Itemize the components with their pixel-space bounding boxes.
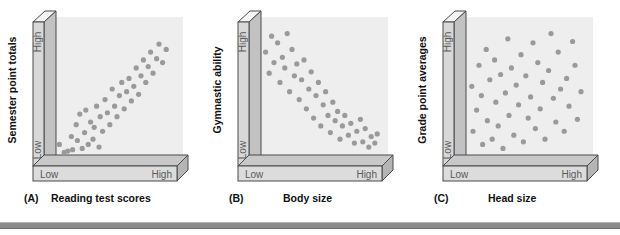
data-point	[493, 100, 498, 105]
x-tick-high: High	[561, 169, 582, 180]
panel-a: High Low Low High Semester point totals …	[0, 0, 200, 215]
y-tick-high: High	[237, 32, 248, 53]
data-point	[96, 144, 101, 149]
data-point	[282, 65, 287, 70]
data-point	[352, 141, 357, 146]
data-point	[285, 31, 290, 36]
data-point	[490, 137, 495, 142]
data-point	[289, 47, 294, 52]
data-point	[506, 113, 511, 118]
plot-area	[463, 17, 593, 160]
data-point	[77, 111, 82, 116]
data-point	[146, 64, 151, 69]
data-point	[86, 142, 91, 147]
data-point	[141, 57, 146, 62]
x-axis-title: Head size	[488, 192, 537, 204]
data-point	[523, 73, 528, 78]
y-axis-side-face	[249, 11, 261, 166]
y-axis-title: Grade point averages	[416, 36, 428, 144]
data-point	[354, 129, 359, 134]
data-point	[474, 108, 479, 113]
data-point	[553, 119, 558, 124]
x-tick-high: High	[151, 169, 172, 180]
data-point	[57, 142, 62, 147]
data-point	[82, 130, 87, 135]
data-point	[484, 47, 489, 52]
data-point	[342, 113, 347, 118]
y-tick-high: High	[442, 32, 453, 53]
data-point	[321, 102, 326, 107]
y-axis-side-face	[454, 11, 466, 166]
data-point	[509, 65, 514, 70]
data-point	[297, 97, 302, 102]
data-point	[112, 104, 117, 109]
data-point	[516, 102, 521, 107]
panel-a-svg: High Low Low High Semester point totals …	[0, 0, 200, 215]
panel-c: High Low Low High Grade point averages (…	[410, 0, 610, 215]
data-point	[575, 117, 580, 122]
data-point	[65, 148, 70, 153]
y-tick-low: Low	[442, 140, 453, 159]
data-point	[277, 80, 282, 85]
data-point	[280, 55, 285, 60]
data-point	[566, 104, 571, 109]
data-point	[366, 144, 371, 149]
data-point	[94, 104, 99, 109]
data-point	[346, 133, 351, 138]
data-point	[360, 139, 365, 144]
data-point	[292, 73, 297, 78]
data-point	[500, 146, 505, 151]
data-point	[100, 129, 105, 134]
data-point	[562, 129, 567, 134]
data-point	[551, 96, 556, 101]
data-point	[323, 89, 328, 94]
y-tick-low: Low	[237, 140, 248, 159]
data-point	[134, 65, 139, 70]
data-point	[530, 40, 535, 45]
data-point	[263, 49, 268, 54]
panel-b: High Low Low High Gymnastic ability (B) …	[205, 0, 405, 215]
y-axis-side-face	[44, 11, 56, 166]
data-point	[148, 49, 153, 54]
data-point	[546, 68, 551, 73]
data-point	[269, 34, 274, 39]
panel-letter: (A)	[24, 192, 39, 204]
x-tick-high: High	[356, 169, 377, 180]
y-axis-title: Semester point totals	[6, 36, 18, 143]
x-tick-low: Low	[245, 169, 264, 180]
data-point	[318, 123, 323, 128]
data-point	[138, 73, 143, 78]
data-point	[558, 86, 563, 91]
data-point	[492, 57, 497, 62]
data-point	[335, 109, 340, 114]
data-point	[313, 93, 318, 98]
data-point	[124, 89, 129, 94]
data-point	[487, 77, 492, 82]
data-point	[117, 93, 122, 98]
data-point	[548, 31, 553, 36]
data-point	[114, 114, 119, 119]
data-point	[156, 42, 161, 47]
data-point	[528, 94, 533, 99]
data-point	[498, 72, 503, 77]
data-point	[533, 126, 538, 131]
data-point	[572, 63, 577, 68]
data-point	[110, 86, 115, 91]
data-point	[485, 118, 490, 123]
data-point	[476, 63, 481, 68]
data-point	[511, 133, 516, 138]
data-point	[294, 61, 299, 66]
data-point	[542, 137, 547, 142]
data-point	[311, 115, 316, 120]
panel-letter: (B)	[229, 192, 244, 204]
data-point	[83, 108, 88, 113]
data-point	[88, 119, 93, 124]
data-point	[358, 117, 363, 122]
data-point	[129, 98, 134, 103]
data-point	[301, 57, 306, 62]
data-point	[126, 76, 131, 81]
data-point	[107, 122, 112, 127]
data-point	[372, 141, 377, 146]
data-point	[136, 92, 141, 97]
data-point	[564, 76, 569, 81]
